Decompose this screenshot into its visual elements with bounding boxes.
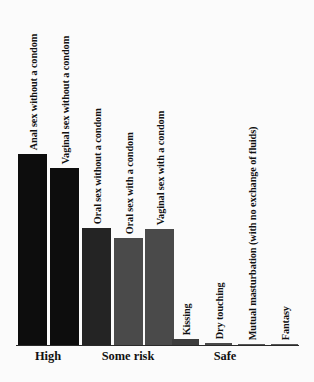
bar-rect (82, 228, 111, 346)
x-axis-line (16, 345, 299, 346)
category-label-high: High (8, 349, 88, 364)
bar-label: Vaginal sex with a condom (156, 111, 166, 225)
risk-bar-chart: Anal sex without a condom Vaginal sex wi… (0, 0, 314, 382)
bar-label: Oral sex without a condom (93, 108, 103, 224)
bar-group: Oral sex without a condom (82, 0, 111, 346)
bar-group: Mutual masturbation (with no exchange of… (238, 0, 265, 346)
category-label-safe: Safe (185, 349, 265, 364)
bar-rect (18, 154, 47, 346)
bar-label: Dry touching (215, 282, 225, 339)
bar-label: Kissing (182, 303, 192, 335)
bar-rect (145, 229, 174, 346)
bar-label: Oral sex with a condom (125, 132, 135, 234)
chart-plot-area: Anal sex without a condom Vaginal sex wi… (0, 0, 314, 346)
bar-label: Mutual masturbation (with no exchange of… (248, 126, 258, 340)
bar-group: Vaginal sex without a condom (50, 0, 79, 346)
bar-group: Anal sex without a condom (18, 0, 47, 346)
x-axis-category-labels: High Some risk Safe (0, 349, 314, 373)
bar-label: Fantasy (281, 306, 291, 340)
bar-group: Fantasy (271, 0, 298, 346)
bar-group: Vaginal sex with a condom (145, 0, 174, 346)
bar-rect (114, 238, 143, 346)
bar-group: Kissing (172, 0, 199, 346)
category-label-some-risk: Some risk (83, 349, 173, 364)
bar-label: Vaginal sex without a condom (61, 36, 71, 164)
bar-label: Anal sex without a condom (29, 34, 39, 151)
bar-group: Oral sex with a condom (114, 0, 143, 346)
bar-rect (50, 168, 79, 346)
bar-group: Dry touching (205, 0, 232, 346)
